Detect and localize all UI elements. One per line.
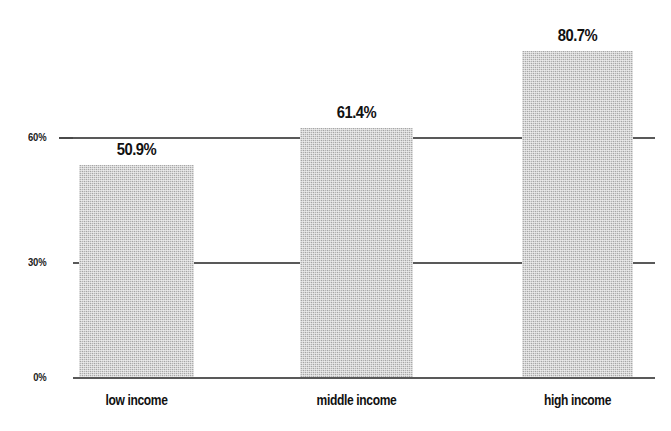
category-label-high-income: high income bbox=[530, 392, 625, 408]
bar-low-income bbox=[79, 165, 194, 378]
bar-chart: 60% 30% 0% 50.9% 61.4% 80.7% low income … bbox=[0, 0, 671, 431]
category-label-middle-income: middle income bbox=[308, 392, 405, 408]
y-axis-label-30: 30% bbox=[28, 256, 46, 268]
y-axis-tick-60 bbox=[59, 137, 73, 139]
y-axis-label-0: 0% bbox=[33, 371, 46, 383]
y-axis-label-60: 60% bbox=[28, 131, 46, 143]
data-label-low-income: 50.9% bbox=[86, 140, 186, 160]
data-label-high-income: 80.7% bbox=[529, 26, 626, 46]
plot-area: 60% 30% 0% 50.9% 61.4% 80.7% low income … bbox=[0, 0, 671, 431]
bar-middle-income bbox=[300, 128, 413, 378]
bar-high-income bbox=[522, 51, 633, 378]
category-label-low-income: low income bbox=[87, 392, 186, 408]
data-label-middle-income: 61.4% bbox=[307, 103, 405, 123]
x-axis-line bbox=[73, 377, 655, 379]
